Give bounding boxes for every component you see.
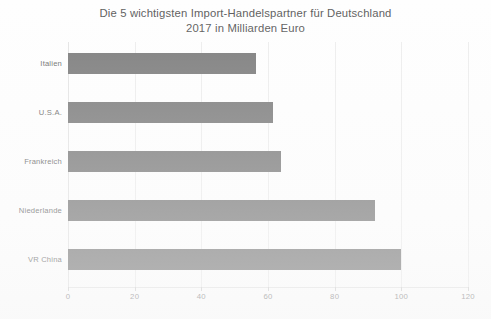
- y-axis-label-u-s-a: U.S.A.: [2, 108, 62, 117]
- y-axis-label-italien: Italien: [2, 59, 62, 68]
- gridline-100: [401, 42, 402, 287]
- chart-title-line-2: 2017 in Milliarden Euro: [0, 21, 491, 36]
- chart-title: Die 5 wichtigsten Import-Handelspartner …: [0, 6, 491, 36]
- x-tick-120: [468, 287, 469, 291]
- x-tick-60: [268, 287, 269, 291]
- chart-title-line-1: Die 5 wichtigsten Import-Handelspartner …: [0, 6, 491, 21]
- bar-u-s-a[interactable]: [68, 102, 273, 123]
- x-axis-tick-labels: 020406080100120: [0, 292, 491, 308]
- bar-frankreich[interactable]: [68, 151, 281, 172]
- x-tick-label-80: 80: [330, 292, 339, 301]
- x-tick-label-20: 20: [130, 292, 139, 301]
- x-tick-0: [68, 287, 69, 291]
- gridline-120: [468, 42, 469, 287]
- x-tick-100: [401, 287, 402, 291]
- x-tick-20: [135, 287, 136, 291]
- bar-niederlande[interactable]: [68, 200, 375, 221]
- y-axis-label-frankreich: Frankreich: [2, 157, 62, 166]
- plot-area: [68, 42, 468, 287]
- y-axis-label-niederlande: Niederlande: [2, 206, 62, 215]
- y-axis-labels: ItalienU.S.A.FrankreichNiederlandeVR Chi…: [0, 42, 62, 287]
- x-tick-label-60: 60: [263, 292, 272, 301]
- x-tick-80: [335, 287, 336, 291]
- x-tick-40: [201, 287, 202, 291]
- x-tick-label-120: 120: [461, 292, 475, 301]
- y-axis-label-vr-china: VR China: [2, 255, 62, 264]
- x-tick-label-0: 0: [66, 292, 71, 301]
- bar-vr-china[interactable]: [68, 249, 401, 270]
- bar-chart: Die 5 wichtigsten Import-Handelspartner …: [0, 0, 491, 319]
- x-tick-label-100: 100: [395, 292, 409, 301]
- bar-italien[interactable]: [68, 53, 256, 74]
- x-tick-label-40: 40: [197, 292, 206, 301]
